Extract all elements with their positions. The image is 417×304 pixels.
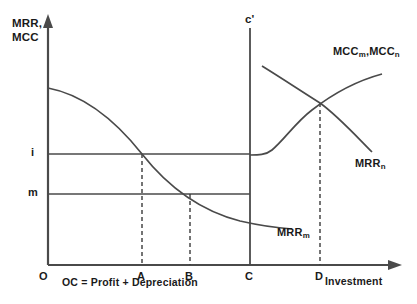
investment-diagram-figure: MRR, MCC Investment i m O A B C D c' MCC… xyxy=(0,0,417,304)
y-tick-label-i: i xyxy=(31,146,34,159)
x-axis-arrowhead xyxy=(388,260,402,270)
mrr-m-curve xyxy=(48,88,292,229)
mrr-n-label-sub: n xyxy=(381,162,386,171)
mrr-n-curve xyxy=(262,66,372,152)
x-axis-label: Investment xyxy=(325,275,382,287)
y-axis-label-line2: MCC xyxy=(12,31,39,43)
mcc-label-text: MCC xyxy=(333,45,359,57)
mcc-label-sub-m: m xyxy=(359,50,366,59)
y-axis-arrowhead xyxy=(43,14,53,28)
x-tick-label-c: C xyxy=(245,270,253,283)
y-tick-label-m: m xyxy=(28,186,38,199)
mrr-m-curve-label: MRRm xyxy=(277,226,310,239)
mcc-curve-label: MCCm,MCCn xyxy=(333,45,400,58)
mrr-n-label-text: MRR xyxy=(355,157,381,169)
y-axis xyxy=(43,14,53,265)
mrr-m-label-text: MRR xyxy=(277,226,303,238)
x-axis xyxy=(48,260,402,270)
mrr-m-label-sub: m xyxy=(303,231,310,240)
mcc-label-sep: ,MCC xyxy=(366,45,395,57)
x-tick-label-o: O xyxy=(39,270,48,283)
y-axis-label-line1: MRR, xyxy=(12,17,42,29)
y-axis-label: MRR, MCC xyxy=(12,17,42,44)
x-tick-label-d: D xyxy=(315,270,323,283)
mcc-label-sub-n: n xyxy=(395,50,400,59)
mrr-n-curve-label: MRRn xyxy=(355,157,386,170)
c-prime-label: c' xyxy=(245,13,255,27)
oc-identity-caption: OC = Profit + Depreciation xyxy=(62,276,198,288)
